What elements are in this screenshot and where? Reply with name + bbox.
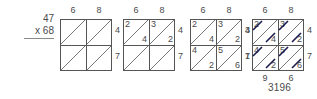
cell-r0c0: 2 4 bbox=[123, 19, 149, 45]
cell-lower-digit: 2 bbox=[271, 60, 276, 71]
top-label-a: 6 bbox=[66, 5, 80, 15]
cell-r0c1: 3 2 bbox=[149, 19, 175, 45]
top-label-a: 6 bbox=[129, 5, 143, 15]
cell-lower-digit: 2 bbox=[209, 60, 214, 71]
cell-lower-digit: 6 bbox=[235, 60, 240, 71]
top-label-a: 6 bbox=[258, 5, 272, 15]
cell-lower-digit: 6 bbox=[297, 60, 302, 71]
cell-r1c0 bbox=[60, 45, 86, 71]
cell-r1c1: 5 6 bbox=[278, 45, 304, 71]
right-label-b: 7 bbox=[178, 51, 187, 61]
multiplier: x 68 bbox=[10, 25, 54, 37]
cell-r0c1: 3 2 bbox=[278, 19, 304, 45]
left-sum-a: 3 bbox=[241, 25, 250, 35]
cell-lower-digit: 2 bbox=[235, 34, 240, 45]
cell-lower-digit: 2 bbox=[168, 34, 173, 45]
cell-upper-digit: 5 bbox=[218, 45, 223, 56]
lattice-grid-2: 2 4 3 2 6 8 4 7 bbox=[123, 19, 175, 71]
cell-upper-digit: 4 bbox=[254, 45, 259, 56]
cell-r1c0: 4 2 bbox=[190, 45, 216, 71]
cell-lower-digit: 4 bbox=[271, 34, 276, 45]
right-label-b: 7 bbox=[307, 51, 316, 61]
multiplicand: 47 bbox=[10, 13, 54, 25]
cell-r0c0: 2 4 bbox=[252, 19, 278, 45]
cell-r0c1 bbox=[86, 19, 112, 45]
cell-lower-digit: 4 bbox=[142, 34, 147, 45]
lattice-multiplication-figure: 47 x 68 6 8 4 7 bbox=[0, 0, 317, 99]
cell-upper-digit: 5 bbox=[280, 45, 285, 56]
cell-upper-digit: 4 bbox=[192, 45, 197, 56]
cell-r1c1: 5 6 bbox=[216, 45, 242, 71]
cell-lower-digit: 2 bbox=[297, 34, 302, 45]
cell-upper-digit: 2 bbox=[125, 19, 130, 30]
cell-upper-digit: 2 bbox=[254, 19, 259, 30]
right-label-a: 4 bbox=[178, 25, 187, 35]
cell-r1c1 bbox=[86, 45, 112, 71]
cell-r1c0: 4 2 bbox=[252, 45, 278, 71]
cell-r0c0: 2 4 bbox=[190, 19, 216, 45]
cell-upper-digit: 3 bbox=[218, 19, 223, 30]
problem-rule bbox=[24, 38, 54, 39]
top-label-b: 8 bbox=[222, 5, 236, 15]
cell-upper-digit: 2 bbox=[192, 19, 197, 30]
cell-upper-digit: 3 bbox=[151, 19, 156, 30]
cell-r0c0 bbox=[60, 19, 86, 45]
problem-statement: 47 x 68 bbox=[10, 13, 54, 39]
lattice-grid-4: 2 4 3 2 4 2 5 6 6 8 4 7 3 1 bbox=[252, 19, 304, 71]
top-label-a: 6 bbox=[196, 5, 210, 15]
lattice-grid-3: 2 4 3 2 4 2 5 6 6 8 4 7 bbox=[190, 19, 242, 71]
left-sum-b: 1 bbox=[241, 51, 250, 61]
final-answer: 3196 bbox=[268, 82, 291, 94]
top-label-b: 8 bbox=[92, 5, 106, 15]
top-label-b: 8 bbox=[155, 5, 169, 15]
right-label-a: 4 bbox=[307, 25, 316, 35]
cell-r1c1 bbox=[149, 45, 175, 71]
cell-r0c1: 3 2 bbox=[216, 19, 242, 45]
lattice-grid-1: 6 8 4 7 bbox=[60, 19, 112, 71]
top-label-b: 8 bbox=[284, 5, 298, 15]
cell-lower-digit: 4 bbox=[209, 34, 214, 45]
cell-upper-digit: 3 bbox=[280, 19, 285, 30]
cell-r1c0 bbox=[123, 45, 149, 71]
